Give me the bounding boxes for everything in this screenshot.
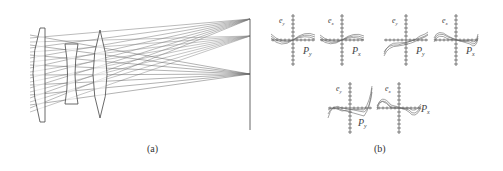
xlabel-2: Px (351, 45, 361, 57)
plot-5-ey-py: ey Py (328, 82, 372, 134)
ylabel-2: ex (328, 16, 335, 26)
xlabel-5: Py (357, 117, 367, 129)
lens-2-icon (65, 44, 78, 104)
ylabel-5: ey (336, 84, 343, 94)
aberration-plots-panel: ey Py ex Px ey Py (260, 0, 503, 171)
xlabel-1: Py (302, 45, 312, 57)
ylabel-3: ey (392, 16, 399, 26)
caption-b: (b) (374, 143, 386, 154)
plot-3-ey-py: ey Py (384, 14, 428, 66)
plot-2-ex-px: ex Px (320, 14, 364, 66)
ylabel-1: ey (279, 16, 286, 26)
ylabel-6: ex (385, 84, 392, 94)
plot-1-ey-py: ey Py (271, 14, 315, 66)
plot-6-ex-px: ex Px (377, 82, 430, 134)
lens-3-icon (93, 30, 107, 118)
caption-a: (a) (147, 143, 158, 154)
lens-diagram-panel: (a) (0, 0, 260, 171)
ylabel-4: ex (442, 16, 449, 26)
plot-4-ex-px: ex Px (434, 14, 478, 66)
xlabel-4: Px (465, 45, 475, 57)
ray-bundle-top (30, 19, 250, 108)
xlabel-6: Px (420, 103, 430, 115)
lens-ray-trace-svg (0, 0, 260, 171)
xlabel-3: Py (415, 45, 425, 57)
